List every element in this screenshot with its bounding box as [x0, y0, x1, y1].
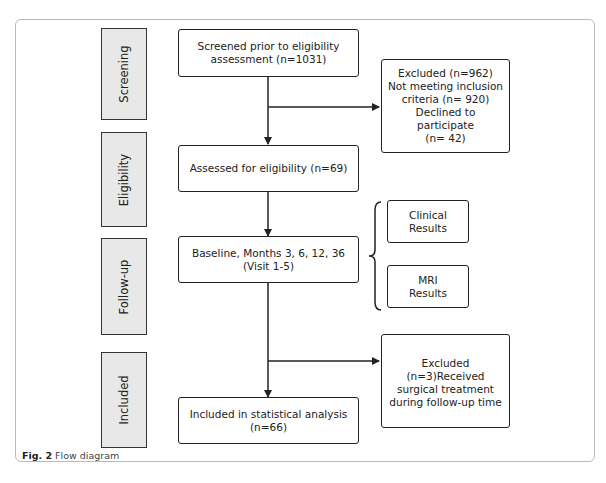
box-text: Screened prior to eligibility assessment…	[197, 40, 339, 66]
excluded-eligibility-box: Excluded (n=962) Not meeting inclusion c…	[381, 59, 510, 153]
assessed-box: Assessed for eligibility (n=69)	[178, 145, 359, 192]
box-text: MRI Results	[409, 274, 447, 300]
box-text: Included in statistical analysis (n=66)	[190, 408, 348, 434]
baseline-box: Baseline, Months 3, 6, 12, 36 (Visit 1-5…	[178, 236, 359, 283]
brace-icon	[369, 202, 381, 310]
excluded-followup-box: Excluded (n=3)Received surgical treatmen…	[381, 334, 510, 428]
figure-caption: Fig. 2 Flow diagram	[22, 450, 119, 461]
mri-results-box: MRI Results	[387, 265, 469, 308]
caption-text: Flow diagram	[52, 450, 119, 461]
clinical-results-box: Clinical Results	[387, 200, 469, 243]
box-text: Assessed for eligibility (n=69)	[190, 162, 348, 175]
box-text: Excluded (n=3)Received surgical treatmen…	[388, 357, 503, 409]
included-box: Included in statistical analysis (n=66)	[178, 397, 359, 444]
box-text: Excluded (n=962) Not meeting inclusion c…	[388, 67, 503, 145]
caption-label: Fig. 2	[22, 450, 52, 461]
screened-box: Screened prior to eligibility assessment…	[178, 29, 359, 77]
box-text: Baseline, Months 3, 6, 12, 36 (Visit 1-5…	[192, 247, 345, 273]
box-text: Clinical Results	[409, 209, 447, 235]
